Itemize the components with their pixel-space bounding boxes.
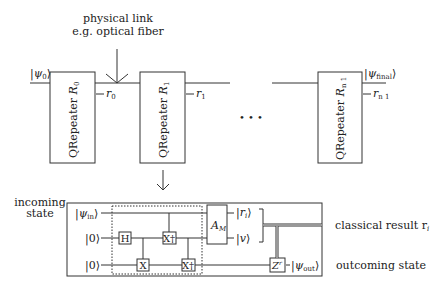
output-r-i: |ri⟩ — [236, 206, 252, 220]
wire-input-psi-in: |ψin⟩ — [75, 207, 98, 221]
quantum-repeater-diagram: physical link e.g. optical fiber |ψ0⟩ |ψ… — [0, 0, 435, 286]
repeater-r1-label: QRepeater R1 — [157, 82, 171, 158]
final-state-label: |ψfinal⟩ — [364, 67, 396, 81]
output-psi-out: |ψout⟩ — [291, 259, 319, 273]
cnot-x-gate: X — [139, 260, 147, 271]
wire-input-zero-1: |0⟩ — [85, 232, 100, 246]
output-v: |v⟩ — [236, 232, 250, 246]
wire-input-zero-2: |0⟩ — [85, 259, 100, 273]
ellipsis: • • • — [239, 112, 263, 123]
optical-fiber-label: e.g. optical fiber — [72, 25, 164, 38]
result-r1: r1 — [196, 87, 206, 101]
x-dagger-gate-2: X† — [182, 260, 194, 271]
result-r0: r0 — [106, 87, 116, 101]
state-label: state — [26, 207, 54, 220]
input-state-label: |ψ0⟩ — [30, 67, 51, 81]
repeater-rn1-label: QRepeater Rn 1 — [334, 77, 348, 160]
physical-link-label: physical link — [83, 12, 153, 25]
classical-result-label: classical result ri — [335, 219, 429, 233]
outcoming-state-label: outcoming state — [336, 259, 426, 272]
result-rn1: rn 1 — [373, 87, 389, 101]
repeater-r0-label: QRepeater R0 — [67, 82, 81, 158]
hadamard-gate: H — [121, 233, 130, 244]
x-dagger-gate-1: X† — [163, 233, 175, 244]
